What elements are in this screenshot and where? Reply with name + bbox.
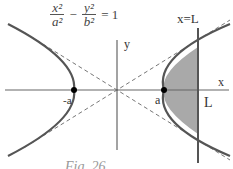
- fraction-x: x² a²: [50, 1, 64, 28]
- equals-one: = 1: [101, 7, 118, 23]
- vertex-point-a: [161, 87, 167, 93]
- minus-sign: −: [69, 7, 76, 23]
- vertex-point-neg-a: [71, 87, 77, 93]
- fraction-y-numerator: y²: [82, 1, 96, 14]
- vertex-label-a: a: [155, 94, 160, 106]
- fraction-x-numerator: x²: [50, 1, 64, 14]
- hyperbola-equation: x² a² − y² b² = 1: [48, 1, 121, 28]
- figure-caption: Fig. 26: [65, 160, 105, 169]
- L-mark-label: L: [204, 96, 213, 110]
- vertex-label-neg-a: -a: [63, 95, 72, 106]
- fraction-x-denominator: a²: [50, 15, 64, 28]
- y-axis-label: y: [124, 38, 130, 50]
- x-axis-label: x: [218, 76, 224, 88]
- fraction-y: y² b²: [82, 1, 96, 28]
- fraction-y-denominator: b²: [82, 15, 96, 28]
- line-label-x-equals-L: x=L: [177, 12, 199, 25]
